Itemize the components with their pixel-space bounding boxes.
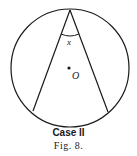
case-label: Case II — [0, 127, 137, 138]
circle-diagram: x O — [0, 0, 137, 128]
angle-arc — [61, 34, 79, 36]
center-point — [67, 66, 70, 69]
center-label: O — [72, 70, 79, 81]
chord-left — [33, 10, 70, 111]
chord-right — [70, 10, 108, 112]
figure-caption: Fig. 8. — [0, 140, 137, 151]
angle-label: x — [66, 37, 71, 47]
